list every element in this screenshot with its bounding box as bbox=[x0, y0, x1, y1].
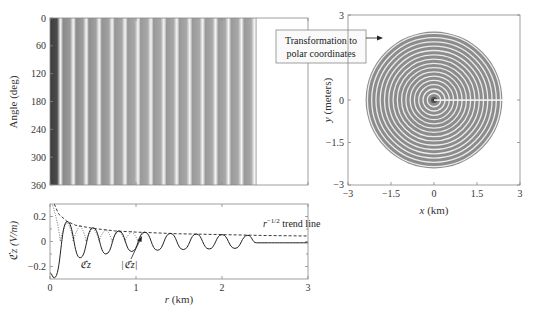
series-label-abs: |ℭz| bbox=[121, 259, 137, 270]
heatmap-y-tick-label: 120 bbox=[31, 68, 46, 79]
polar-y-tick-label: −1.5 bbox=[326, 137, 344, 148]
profile-x-tick-label: 2 bbox=[220, 282, 225, 293]
polar-y-tick-label: 3 bbox=[339, 10, 344, 21]
series-label-ez: ℭz bbox=[80, 259, 91, 270]
polar-y-axis-label: y (meters) bbox=[321, 78, 334, 124]
polar-y-unit: (meters) bbox=[321, 78, 334, 118]
profile-y-tick-label: 0.2 bbox=[34, 211, 47, 222]
profile-y-tick-label: 0 bbox=[41, 236, 46, 247]
abs-label-arrow-line bbox=[131, 240, 140, 259]
callout-text-line2: polar coordinates bbox=[286, 48, 355, 59]
polar-x-tick-label: 1.5 bbox=[471, 188, 484, 199]
heatmap-y-tick-label: 0 bbox=[41, 13, 46, 24]
heatmap-panel: 060120180240300360 Angle (deg) bbox=[7, 13, 308, 191]
polar-x-tick-label: −3 bbox=[343, 188, 354, 199]
profile-panel: 0.20−0.2 0123 r−1/2 trend line ℭz |ℭz| ℭ… bbox=[7, 204, 321, 306]
polar-x-axis-label: x (km) bbox=[418, 204, 448, 217]
profile-y-tick-label: −0.2 bbox=[28, 261, 46, 272]
trend-label-rest: trend line bbox=[280, 218, 321, 229]
heatmap-y-tick-label: 60 bbox=[36, 40, 46, 51]
heatmap-y-tick-label: 180 bbox=[31, 96, 46, 107]
polar-x-tick-label: 3 bbox=[518, 188, 523, 199]
trend-label-exp: −1/2 bbox=[267, 217, 280, 225]
heatmap-y-axis-label: Angle (deg) bbox=[7, 75, 20, 128]
profile-x-unit: (km) bbox=[169, 293, 193, 306]
profile-x-tick-label: 1 bbox=[134, 282, 139, 293]
profile-x-tick-label: 0 bbox=[48, 282, 53, 293]
polar-y-tick-label: −3 bbox=[333, 179, 344, 190]
heatmap-y-tick-label: 360 bbox=[31, 180, 46, 191]
profile-y-axis-label: ℭz (V/m) bbox=[7, 221, 20, 261]
trend-line-label: r−1/2 trend line bbox=[263, 217, 321, 229]
polar-y-tick-label: 0 bbox=[339, 95, 344, 106]
polar-seam bbox=[434, 99, 503, 101]
polar-x-tick-label: 0 bbox=[432, 188, 437, 199]
heatmap-y-tick-label: 240 bbox=[31, 124, 46, 135]
profile-x-tick-label: 3 bbox=[306, 282, 311, 293]
figure: 060120180240300360 Angle (deg) Transform… bbox=[0, 0, 534, 311]
polar-x-ticks: −3−1.501.53 bbox=[343, 182, 523, 199]
heatmap-image bbox=[50, 18, 257, 185]
heatmap-y-tick-label: 300 bbox=[31, 152, 46, 163]
arrow-right-icon bbox=[377, 36, 383, 41]
polar-x-tick-label: −1.5 bbox=[382, 188, 400, 199]
transform-callout: Transformation to polar coordinates bbox=[276, 30, 383, 63]
polar-x-unit: (km) bbox=[424, 204, 448, 217]
profile-x-axis-label: r (km) bbox=[165, 293, 194, 306]
callout-text-line1: Transformation to bbox=[285, 35, 357, 46]
